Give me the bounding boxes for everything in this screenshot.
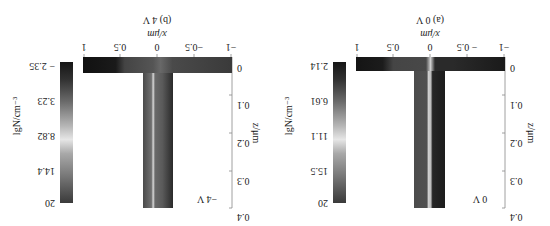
heatmap-bar-a (356, 57, 505, 71)
rotated-figure: 0 0.1 0.2 0.3 0.4 z/μm −1 − 0.5 0 0.5 1 … (11, 14, 537, 223)
x-tick-label: 1 (355, 42, 360, 53)
z-ticks-b (229, 58, 232, 208)
x-axis-label-a: x/μm (420, 29, 440, 40)
colorbar-tick-label: 11.1 (311, 131, 328, 142)
z-tick-label: 0.2 (237, 138, 250, 149)
z-tick-label: 0 (510, 63, 515, 74)
z-ticks-a (502, 58, 505, 208)
x-tick-label: − 0.5 (457, 42, 478, 53)
z-tick-label: 0.3 (237, 176, 250, 187)
z-axis-label-a: z/μm (526, 123, 537, 144)
colorbar-tick-label: 20 (318, 198, 328, 209)
colorbar-b (60, 62, 73, 203)
colorbar-tick-label: 20 (45, 198, 55, 209)
panel-b: 0 0.1 0.2 0.3 0.4 z/μm −1 −0.5 0 0.5 1 x… (11, 14, 262, 223)
panel-a: 0 0.1 0.2 0.3 0.4 z/μm −1 − 0.5 0 0.5 1 … (283, 14, 537, 223)
z-tick-label: 0 (237, 63, 242, 74)
colorbar-tick-label: 8.82 (38, 131, 56, 142)
x-tick-label: 0 (155, 42, 160, 53)
panel-title-a: (a) 0 V (415, 14, 444, 26)
figure: 0 0.1 0.2 0.3 0.4 z/μm −1 − 0.5 0 0.5 1 … (0, 0, 550, 226)
z-tick-label: 0.4 (510, 212, 523, 223)
x-tick-label: 1 (82, 42, 87, 53)
heatmap-bar-b (83, 57, 232, 73)
colorbar-tick-label: 2.14 (311, 61, 329, 72)
x-tick-label: −0.5 (185, 42, 203, 53)
x-tick-label: 0 (428, 42, 433, 53)
heatmap-stem-a (414, 71, 445, 208)
bias-label-a: 0 V (472, 194, 487, 205)
colorbar-label-a: lgN/cm⁻³ (283, 97, 294, 135)
z-tick-label: 0.4 (237, 212, 250, 223)
x-tick-label: −1 (499, 42, 510, 53)
panel-title-b: (b) 4 V (142, 14, 171, 26)
colorbar-tick-label: 14.4 (38, 166, 56, 177)
z-tick-label: 0.3 (510, 176, 523, 187)
colorbar-tick-label: 3.23 (38, 96, 56, 107)
z-tick-label: 0.1 (510, 100, 523, 111)
z-tick-label: 0.1 (237, 100, 250, 111)
z-axis-label-b: z/μm (251, 123, 262, 144)
x-axis-label-b: x/μm (147, 29, 167, 40)
colorbar-tick-label: 15.5 (311, 166, 329, 177)
x-ticks-a (357, 54, 504, 57)
heatmap-stem-b (143, 73, 173, 208)
colorbar-tick-label: − 2.35 (29, 61, 55, 72)
x-tick-label: 0.5 (114, 42, 127, 53)
bias-label-b: −4 V (196, 194, 217, 205)
x-ticks-b (84, 54, 231, 57)
colorbar-label-b: lgN/cm⁻³ (11, 97, 22, 135)
colorbar-a (333, 62, 346, 203)
colorbar-tick-label: 6.61 (311, 96, 329, 107)
x-tick-label: 0.5 (387, 42, 400, 53)
x-tick-label: −1 (226, 42, 237, 53)
z-tick-label: 0.2 (510, 138, 523, 149)
